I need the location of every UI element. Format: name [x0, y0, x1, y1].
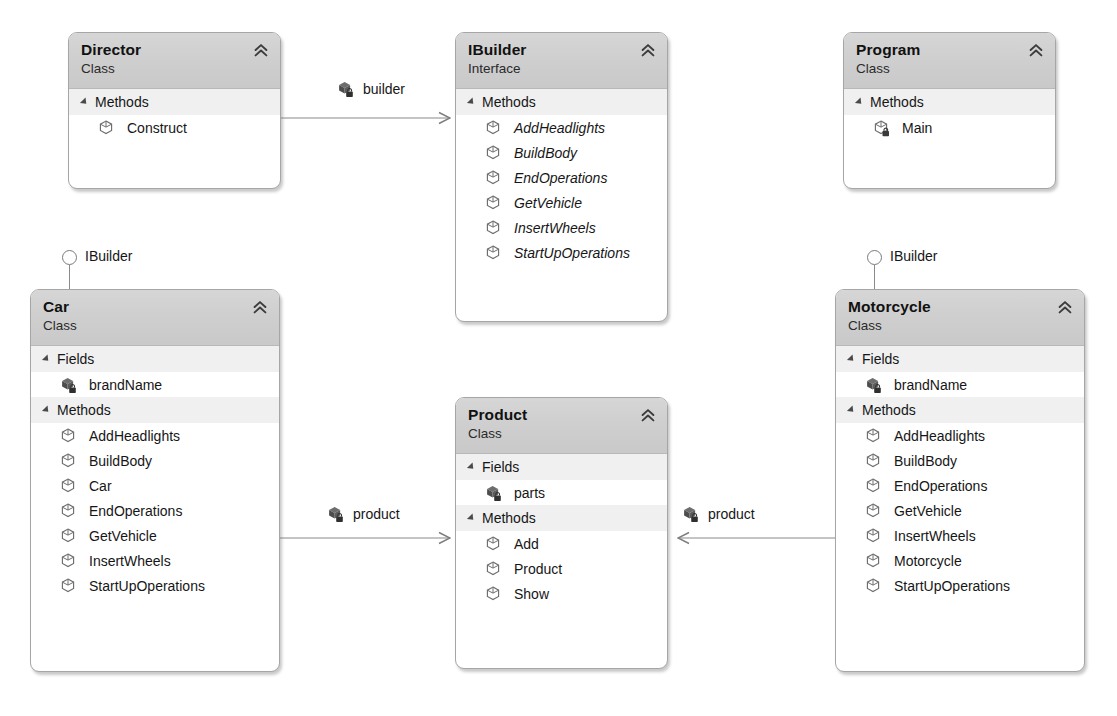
class-box-header[interactable]: Program Class — [844, 33, 1055, 89]
triangle-expanded-icon[interactable] — [467, 462, 476, 471]
section-header-methods[interactable]: Methods — [456, 505, 667, 531]
class-stereotype: Class — [848, 317, 1074, 335]
section-header-methods[interactable]: Methods — [31, 397, 279, 423]
member-row[interactable]: Main — [844, 115, 1055, 140]
section-header-fields[interactable]: Fields — [836, 346, 1084, 372]
association-label-text: builder — [363, 81, 405, 97]
member-row[interactable]: BuildBody — [31, 448, 279, 473]
method-icon — [864, 527, 882, 545]
class-box-motorcycle[interactable]: Motorcycle Class Fields brandName Method… — [835, 289, 1085, 672]
class-stereotype: Class — [856, 60, 1045, 78]
class-box-body: Fields brandName Methods AddHeadlights — [836, 346, 1084, 608]
triangle-expanded-icon[interactable] — [42, 405, 51, 414]
member-name: Main — [902, 120, 932, 136]
triangle-expanded-icon[interactable] — [847, 354, 856, 363]
method-icon — [484, 169, 502, 187]
section-label: Fields — [482, 459, 519, 475]
member-name: StartUpOperations — [89, 578, 205, 594]
member-row[interactable]: StartUpOperations — [456, 240, 667, 265]
member-row[interactable]: EndOperations — [31, 498, 279, 523]
class-box-header[interactable]: Director Class — [69, 33, 280, 89]
member-name: StartUpOperations — [514, 245, 630, 261]
section-header-fields[interactable]: Fields — [456, 454, 667, 480]
member-row[interactable]: Construct — [69, 115, 280, 140]
association-label-text: product — [708, 506, 755, 522]
chevron-up-icon[interactable] — [639, 407, 657, 425]
method-icon — [864, 577, 882, 595]
member-row[interactable]: Product — [456, 556, 667, 581]
class-box-car[interactable]: Car Class Fields brandName Methods — [30, 289, 280, 672]
class-name: Program — [856, 40, 1045, 59]
section-header-methods[interactable]: Methods — [844, 89, 1055, 115]
member-row[interactable]: brandName — [836, 372, 1084, 397]
member-row[interactable]: Motorcycle — [836, 548, 1084, 573]
interface-stem — [874, 265, 875, 289]
member-row[interactable]: Show — [456, 581, 667, 606]
member-row[interactable]: brandName — [31, 372, 279, 397]
class-box-director[interactable]: Director Class Methods Construct — [68, 32, 281, 189]
class-box-program[interactable]: Program Class Methods Main — [843, 32, 1056, 189]
class-name: Director — [81, 40, 270, 59]
member-name: InsertWheels — [89, 553, 171, 569]
class-box-ibuilder[interactable]: IBuilder Interface Methods AddHeadlights… — [455, 32, 668, 322]
member-row[interactable]: AddHeadlights — [836, 423, 1084, 448]
section-header-methods[interactable]: Methods — [456, 89, 667, 115]
class-stereotype: Class — [43, 317, 269, 335]
member-row[interactable]: StartUpOperations — [836, 573, 1084, 598]
class-box-product[interactable]: Product Class Fields parts Methods — [455, 397, 668, 669]
method-icon — [484, 244, 502, 262]
member-row[interactable]: GetVehicle — [31, 523, 279, 548]
member-name: InsertWheels — [514, 220, 596, 236]
class-name: Motorcycle — [848, 297, 1074, 316]
class-box-header[interactable]: Motorcycle Class — [836, 290, 1084, 346]
member-row[interactable]: GetVehicle — [456, 190, 667, 215]
chevron-up-icon[interactable] — [251, 299, 269, 317]
field-private-icon — [864, 376, 882, 394]
class-box-header[interactable]: Car Class — [31, 290, 279, 346]
triangle-expanded-icon[interactable] — [855, 97, 864, 106]
member-row[interactable]: EndOperations — [836, 473, 1084, 498]
section-header-fields[interactable]: Fields — [31, 346, 279, 372]
member-row[interactable]: InsertWheels — [836, 523, 1084, 548]
triangle-expanded-icon[interactable] — [847, 405, 856, 414]
chevron-up-icon[interactable] — [639, 42, 657, 60]
method-icon — [59, 577, 77, 595]
triangle-expanded-icon[interactable] — [467, 97, 476, 106]
member-name: AddHeadlights — [89, 428, 180, 444]
triangle-expanded-icon[interactable] — [467, 513, 476, 522]
class-box-body: Fields parts Methods Add — [456, 454, 667, 616]
member-row[interactable]: parts — [456, 480, 667, 505]
section-header-methods[interactable]: Methods — [69, 89, 280, 115]
member-row[interactable]: Car — [31, 473, 279, 498]
member-row[interactable]: Add — [456, 531, 667, 556]
member-row[interactable]: BuildBody — [836, 448, 1084, 473]
member-row[interactable]: AddHeadlights — [31, 423, 279, 448]
class-box-header[interactable]: IBuilder Interface — [456, 33, 667, 89]
method-icon — [864, 452, 882, 470]
lollipop-motorcycle-ibuilder[interactable]: IBuilder — [862, 250, 937, 290]
member-row[interactable]: AddHeadlights — [456, 115, 667, 140]
member-name: StartUpOperations — [894, 578, 1010, 594]
section-header-methods[interactable]: Methods — [836, 397, 1084, 423]
class-box-header[interactable]: Product Class — [456, 398, 667, 454]
chevron-up-icon[interactable] — [252, 42, 270, 60]
chevron-up-icon[interactable] — [1056, 299, 1074, 317]
chevron-up-icon[interactable] — [1027, 42, 1045, 60]
class-box-body: Methods AddHeadlights BuildBody EndOpera… — [456, 89, 667, 275]
interface-stem — [69, 265, 70, 289]
member-name: BuildBody — [89, 453, 152, 469]
lollipop-car-ibuilder[interactable]: IBuilder — [57, 250, 132, 290]
member-row[interactable]: InsertWheels — [31, 548, 279, 573]
triangle-expanded-icon[interactable] — [42, 354, 51, 363]
member-row[interactable]: StartUpOperations — [31, 573, 279, 598]
member-row[interactable]: InsertWheels — [456, 215, 667, 240]
member-row[interactable]: GetVehicle — [836, 498, 1084, 523]
method-icon — [59, 527, 77, 545]
triangle-expanded-icon[interactable] — [80, 97, 89, 106]
member-row[interactable]: EndOperations — [456, 165, 667, 190]
member-row[interactable]: BuildBody — [456, 140, 667, 165]
method-icon — [59, 452, 77, 470]
field-private-icon — [326, 505, 344, 523]
member-name: AddHeadlights — [894, 428, 985, 444]
method-icon — [864, 477, 882, 495]
